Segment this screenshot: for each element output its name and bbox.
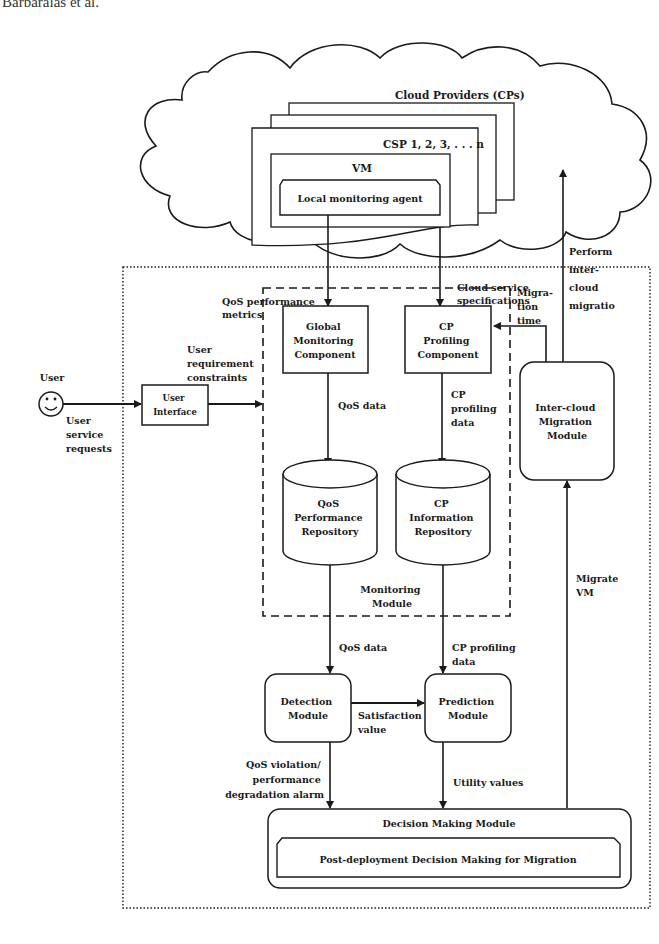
vm-label: VM	[351, 162, 372, 174]
cloud-title: Cloud Providers (CPs)	[395, 89, 525, 101]
decision-label: Decision Making Module	[383, 818, 516, 829]
user-label: User	[40, 372, 66, 383]
label-migration-time: Migra- tion time	[517, 287, 556, 326]
cp-information-repository[interactable]: CP Information Repository	[396, 460, 490, 565]
local-monitoring-agent-label: Local monitoring agent	[297, 193, 423, 204]
label-satisfaction-value: Satisfaction value	[357, 710, 425, 735]
label-cp-profiling-data-1: CP profiling data	[451, 389, 500, 428]
label-user-requests: User service requests	[66, 415, 112, 454]
monitoring-module-label: Monitoring Module	[360, 584, 424, 609]
user-interface-box[interactable]	[142, 385, 208, 425]
arrow-migration-time	[494, 326, 546, 362]
label-qos-violation: QoS violation/ performance degradation a…	[225, 759, 324, 800]
user-actor: User	[39, 372, 65, 416]
label-qos-data-1: QoS data	[338, 400, 386, 411]
label-cp-profiling-data-2: CP profiling data	[452, 642, 519, 667]
label-utility-values: Utility values	[453, 777, 523, 788]
prediction-module[interactable]	[425, 674, 511, 742]
label-migrate-vm: Migrate VM	[575, 573, 622, 598]
detection-module[interactable]	[265, 674, 351, 742]
smiley-icon	[39, 392, 63, 416]
label-perform-migration: Perform inter- cloud migratio	[569, 246, 616, 311]
architecture-diagram: Cloud Providers (CPs) CSP 1, 2, 3, . . .…	[0, 0, 659, 944]
csp-label: CSP 1, 2, 3, . . . n	[383, 138, 484, 150]
label-user-requirements: User requirement constraints	[187, 344, 257, 383]
qos-performance-repository[interactable]: QoS Performance Repository	[283, 460, 377, 565]
cloud-providers-group: Cloud Providers (CPs) CSP 1, 2, 3, . . .…	[140, 43, 650, 258]
label-qos-data-2: QoS data	[339, 642, 387, 653]
post-deployment-label: Post-deployment Decision Making for Migr…	[319, 854, 576, 865]
